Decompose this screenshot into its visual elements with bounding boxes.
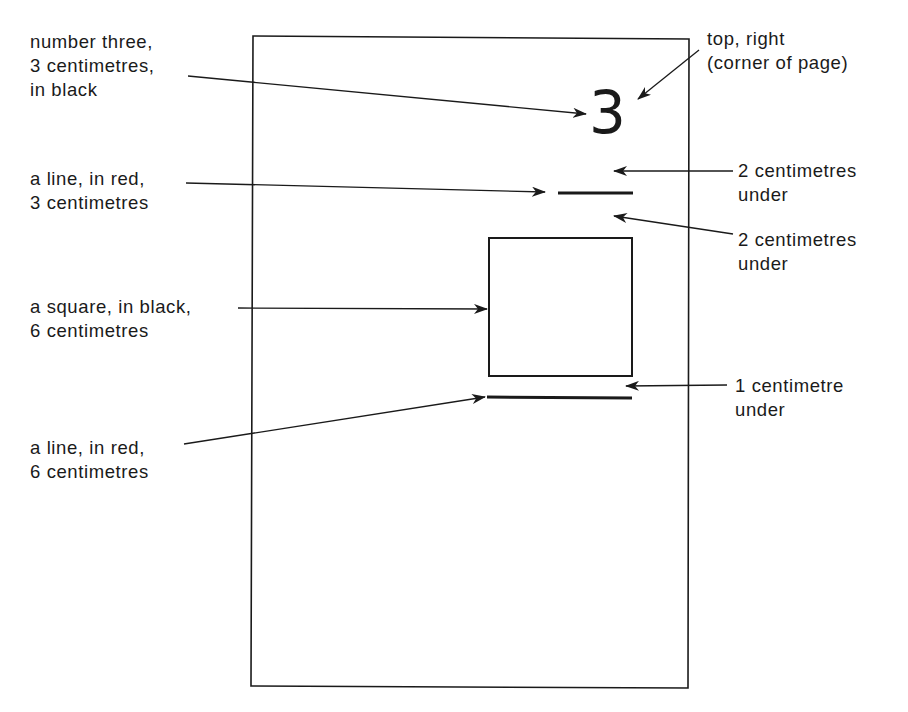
red-line-6cm [487,397,632,398]
label-square-black: a square, in black, 6 centimetres [30,295,192,343]
label-gap-3: 1 centimetre under [735,374,844,422]
arrow-line-red-3 [186,183,545,192]
arrow-top-right [638,50,699,99]
diagram-drawing [0,0,908,712]
arrow-gap-2 [614,216,733,234]
arrow-number-three [188,76,586,114]
black-square [489,238,632,376]
arrow-square [238,308,487,309]
label-line-red-3: a line, in red, 3 centimetres [30,167,149,215]
label-line-red-6: a line, in red, 6 centimetres [30,436,149,484]
arrow-line-red-6 [184,397,485,444]
label-gap-1: 2 centimetres under [738,159,857,207]
arrow-gap-3 [626,385,727,386]
label-number-three: number three, 3 centimetres, in black [30,30,155,102]
label-gap-2: 2 centimetres under [738,228,857,276]
label-top-right: top, right (corner of page) [707,27,848,75]
number-three-glyph: 3 [589,84,626,142]
